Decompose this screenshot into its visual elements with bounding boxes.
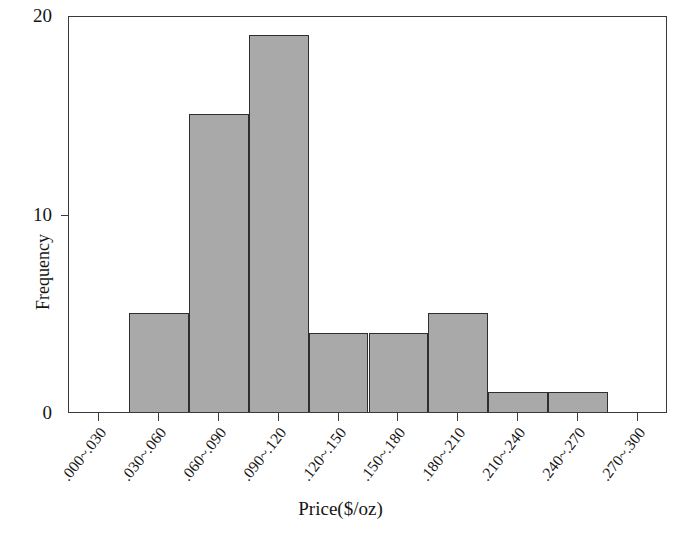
y-axis-tick-labels: 01020 <box>0 16 60 413</box>
bar <box>189 114 249 412</box>
bar-series <box>69 17 666 412</box>
x-axis-title: Price($/oz) <box>0 498 681 520</box>
bar <box>249 35 309 412</box>
x-axis-tick-label: .210~.240 <box>477 424 530 484</box>
bar <box>129 313 189 412</box>
x-axis-tick-label: .270~.300 <box>596 424 649 484</box>
bar <box>369 333 429 412</box>
bar <box>548 392 608 412</box>
bar <box>488 392 548 412</box>
plot-area <box>68 16 667 413</box>
x-axis-tick-label: .030~.060 <box>117 424 170 484</box>
y-axis-tick-mark <box>61 215 68 216</box>
bar <box>309 333 369 412</box>
x-axis-tick-labels: .000~.030.030~.060.060~.090.090~.120.120… <box>0 420 681 500</box>
y-axis-tick-label: 20 <box>33 5 52 27</box>
x-axis-tick-label: .060~.090 <box>177 424 230 484</box>
y-axis-tick-label: 10 <box>33 204 52 226</box>
x-axis-tick-label: .240~.270 <box>537 424 590 484</box>
x-axis-tick-label: .120~.150 <box>297 424 350 484</box>
bar <box>428 313 488 412</box>
x-axis-tick-label: .000~.030 <box>57 424 110 484</box>
histogram-figure: Frequency 01020 .000~.030.030~.060.060~.… <box>0 0 681 543</box>
x-axis-tick-label: .180~.210 <box>417 424 470 484</box>
x-axis-tick-label: .150~.180 <box>357 424 410 484</box>
x-axis-tick-label: .090~.120 <box>237 424 290 484</box>
